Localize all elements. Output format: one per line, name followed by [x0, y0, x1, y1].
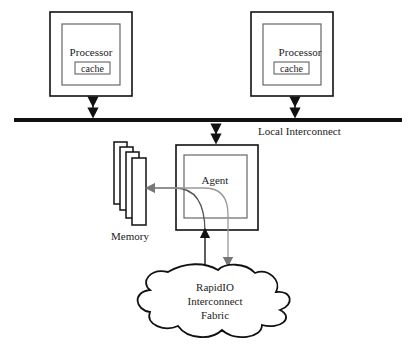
bus-label: Local Interconnect — [258, 125, 341, 137]
memory-stack — [114, 142, 146, 225]
processor-label: Processor — [70, 46, 113, 58]
processor-block-1: Processor cache — [50, 12, 132, 96]
system-diagram: Processor cache Processor cache Local In… — [0, 0, 417, 352]
agent-label: Agent — [202, 174, 229, 186]
cache-label: cache — [280, 63, 303, 74]
processor-block-2: Processor cache — [251, 12, 333, 96]
processor-label: Processor — [279, 46, 322, 58]
cache-label: cache — [81, 63, 104, 74]
memory-label: Memory — [111, 230, 149, 242]
fabric-line-1: RapidIO — [196, 281, 234, 293]
rapidio-fabric-cloud: RapidIO Interconnect Fabric — [138, 264, 290, 337]
fabric-line-3: Fabric — [201, 309, 229, 321]
fabric-line-2: Interconnect — [188, 295, 243, 307]
